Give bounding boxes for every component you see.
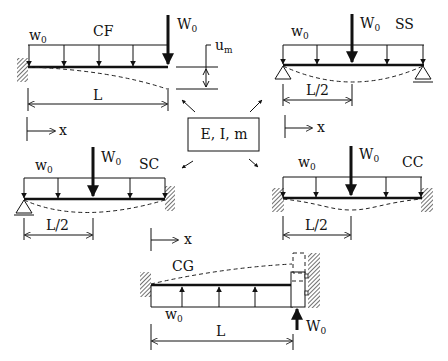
dimension-label: L xyxy=(216,323,225,339)
fixed-wall-right-icon xyxy=(421,188,433,212)
point-load-label: W0 xyxy=(306,318,326,336)
case-label: SS xyxy=(395,16,414,32)
case-cg: CG w0 W0 L xyxy=(140,253,326,350)
displaced-slider-outline xyxy=(293,253,305,273)
pin-support-icon xyxy=(275,66,291,79)
point-load-label: W0 xyxy=(360,15,380,33)
properties-box: E, I, m xyxy=(188,118,259,151)
dist-load-label: w0 xyxy=(35,157,53,175)
x-axis-indicator: x xyxy=(27,117,67,141)
deflected-shape xyxy=(283,66,423,82)
fixed-wall-left-icon xyxy=(272,188,284,212)
case-label: CF xyxy=(93,23,114,39)
case-cc: w0 W0 CC L/2 xyxy=(272,146,433,240)
pin-support-icon xyxy=(16,200,32,213)
deflected-shape xyxy=(24,200,165,213)
deflected-shape xyxy=(28,67,167,89)
dimension-label: L/2 xyxy=(306,82,329,98)
case-label: CC xyxy=(402,154,423,170)
fixed-wall-icon xyxy=(165,186,175,211)
svg-text:x: x xyxy=(59,122,67,138)
x-axis-indicator: x xyxy=(285,115,325,138)
deflection-label: um xyxy=(215,37,233,55)
case-label: SC xyxy=(139,156,159,172)
case-ss: w0 W0 SS L/2 x xyxy=(275,14,433,138)
point-load-label: W0 xyxy=(177,16,197,34)
dimension-label: L/2 xyxy=(305,217,328,233)
guide-wall-icon xyxy=(308,253,320,308)
fixed-wall-icon xyxy=(140,272,151,297)
distributed-load-arrows xyxy=(182,287,255,307)
distributed-load-arrows xyxy=(29,45,133,66)
svg-text:x: x xyxy=(317,119,325,135)
x-axis-indicator: x xyxy=(151,228,192,251)
case-label: CG xyxy=(172,258,194,274)
case-sc: w0 W0 SC L/2 x xyxy=(14,147,192,251)
dist-load-label: w0 xyxy=(298,154,316,172)
dist-load-label: w0 xyxy=(29,27,47,45)
max-deflection-indicator: um xyxy=(176,37,233,89)
properties-label: E, I, m xyxy=(201,126,248,142)
deflected-shape xyxy=(283,199,421,210)
roller-support-icon xyxy=(415,66,431,79)
fixed-wall-icon xyxy=(17,58,28,82)
point-load-label: W0 xyxy=(101,149,121,167)
dist-load-label: w0 xyxy=(291,23,309,41)
dimension-label: L/2 xyxy=(46,217,69,233)
dimension-label: L xyxy=(93,87,102,103)
dist-load-label: w0 xyxy=(165,306,183,324)
svg-text:x: x xyxy=(184,231,192,247)
point-load-label: W0 xyxy=(359,146,379,164)
guided-slider-icon xyxy=(291,272,305,307)
beam-cases-diagram: w0 CF W0 um L x xyxy=(0,0,448,361)
